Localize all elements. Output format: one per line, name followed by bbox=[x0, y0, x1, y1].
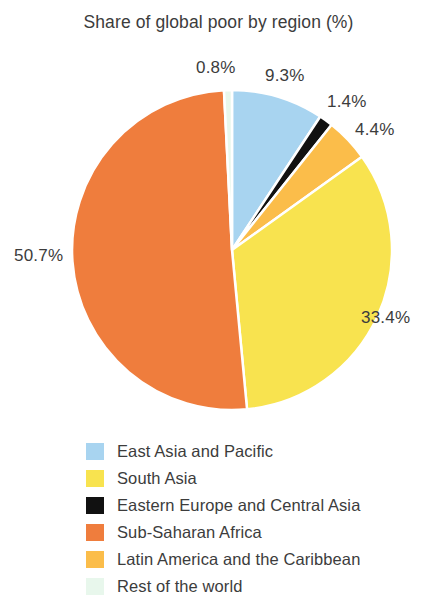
legend-swatch-south-asia bbox=[86, 470, 104, 487]
legend-item-east-asia-and-pacific[interactable]: East Asia and Pacific bbox=[86, 438, 431, 465]
legend-item-rest-of-the-world[interactable]: Rest of the world bbox=[86, 573, 431, 600]
slice-value-eastern-europe-and-central-asia: 1.4% bbox=[327, 92, 367, 112]
legend-swatch-rest-of-the-world bbox=[86, 578, 104, 595]
legend-label-eastern-europe-and-central-asia: Eastern Europe and Central Asia bbox=[117, 496, 360, 515]
slice-value-latin-america-and-the-caribbean: 4.4% bbox=[355, 120, 395, 140]
pie-slice-sub-saharan-africa[interactable] bbox=[72, 90, 247, 410]
legend-label-east-asia-and-pacific: East Asia and Pacific bbox=[117, 442, 273, 461]
legend-label-south-asia: South Asia bbox=[117, 469, 197, 488]
legend-swatch-sub-saharan-africa bbox=[86, 524, 104, 541]
slice-value-east-asia-and-pacific: 9.3% bbox=[265, 66, 305, 86]
legend-swatch-east-asia-and-pacific bbox=[86, 443, 104, 460]
legend-swatch-eastern-europe-and-central-asia bbox=[86, 497, 104, 514]
pie-slice-group bbox=[72, 90, 392, 410]
slice-value-rest-of-the-world: 0.8% bbox=[196, 58, 236, 78]
legend-label-sub-saharan-africa: Sub-Saharan Africa bbox=[117, 523, 262, 542]
legend-item-latin-america-and-the-caribbean[interactable]: Latin America and the Caribbean bbox=[86, 546, 431, 573]
slice-value-south-asia: 33.4% bbox=[361, 308, 410, 328]
pie-chart-figure: Share of global poor by region (%) 0.8% … bbox=[0, 0, 437, 607]
legend-label-rest-of-the-world: Rest of the world bbox=[117, 577, 243, 596]
legend-label-latin-america-and-the-caribbean: Latin America and the Caribbean bbox=[117, 550, 360, 569]
legend-item-sub-saharan-africa[interactable]: Sub-Saharan Africa bbox=[86, 519, 431, 546]
legend-item-south-asia[interactable]: South Asia bbox=[86, 465, 431, 492]
chart-legend: East Asia and PacificSouth AsiaEastern E… bbox=[86, 438, 431, 600]
slice-value-sub-saharan-africa: 50.7% bbox=[14, 246, 63, 266]
legend-item-eastern-europe-and-central-asia[interactable]: Eastern Europe and Central Asia bbox=[86, 492, 431, 519]
legend-swatch-latin-america-and-the-caribbean bbox=[86, 551, 104, 568]
